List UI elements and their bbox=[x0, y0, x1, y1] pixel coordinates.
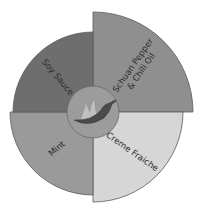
polar-area-chart: Schuan Pepper& Chili OilCreme FraicheMin… bbox=[0, 0, 200, 212]
